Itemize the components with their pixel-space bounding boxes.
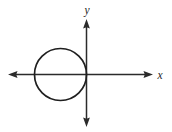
- coordinate-plane-figure: x y: [0, 0, 172, 132]
- y-axis-label: y: [83, 4, 90, 17]
- figure-canvas: x y: [0, 0, 172, 132]
- y-axis-bottom-arrowhead-icon: [83, 118, 90, 128]
- x-axis-right-arrowhead-icon: [144, 71, 154, 78]
- x-axis: [8, 71, 153, 78]
- y-axis-top-arrowhead-icon: [83, 19, 90, 29]
- x-axis-label: x: [156, 69, 163, 81]
- x-axis-left-arrowhead-icon: [8, 71, 18, 78]
